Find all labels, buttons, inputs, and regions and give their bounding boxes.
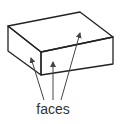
faces-label: faces [0,101,106,117]
left-face [8,26,41,75]
box-shape [8,12,113,75]
arrows [31,33,80,100]
arrow-top-face [61,33,80,100]
top-face [8,12,113,52]
arrow-left-face [31,58,44,100]
